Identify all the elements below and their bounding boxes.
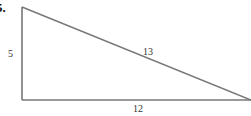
side-left-label: 5: [8, 49, 13, 59]
triangle-figure: 5. 5 13 12: [0, 0, 251, 116]
hypotenuse-label: 13: [143, 47, 153, 57]
hypotenuse-line: [22, 7, 251, 100]
side-bottom-label: 12: [133, 104, 143, 114]
right-triangle-drawing: [0, 0, 251, 116]
